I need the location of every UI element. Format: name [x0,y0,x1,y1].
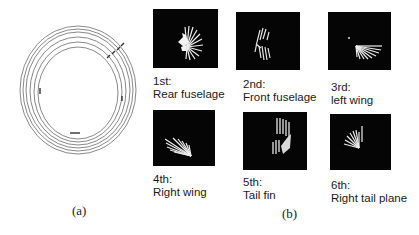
label-part: Right tail plane [331,192,407,205]
thumbnail-front-fuselage [236,12,300,70]
label-6th-right-tail-plane: 6th: Right tail plane [331,179,407,205]
panel-b-caption: (b) [282,206,297,222]
left-wing-line-image [328,12,391,70]
tail-fin-line-image [243,112,307,170]
label-part: Right wing [153,186,207,199]
right-wing-line-image [153,110,215,166]
panel-a-ring-diagram: (a) [0,0,150,235]
label-4th-right-wing: 4th: Right wing [153,173,207,199]
thumbnail-tail-fin [243,112,307,170]
label-order: 5th: [243,176,276,189]
label-order: 2nd: [243,78,317,91]
thumbnail-right-wing [153,110,215,166]
label-order: 6th: [331,179,407,192]
rear-fuselage-line-image [153,9,218,68]
thumbnail-rear-fuselage [153,9,218,68]
label-2nd-front-fuselage: 2nd: Front fuselage [243,78,317,104]
label-part: Front fuselage [243,91,317,104]
label-order: 3rd: [331,81,373,94]
label-part: Rear fuselage [153,88,225,101]
label-3rd-left-wing: 3rd: left wing [331,81,373,107]
panel-a-caption: (a) [72,203,86,219]
thumbnail-left-wing [328,12,391,70]
thumbnail-right-tail-plane [330,114,391,170]
label-part: left wing [331,94,373,107]
label-order: 1st: [153,75,225,88]
right-tail-plane-line-image [330,114,391,170]
label-part: Tail fin [243,189,276,202]
front-fuselage-line-image [236,12,300,70]
label-order: 4th: [153,173,207,186]
label-5th-tail-fin: 5th: Tail fin [243,176,276,202]
label-1st-rear-fuselage: 1st: Rear fuselage [153,75,225,101]
concentric-rings-figure [0,0,150,200]
